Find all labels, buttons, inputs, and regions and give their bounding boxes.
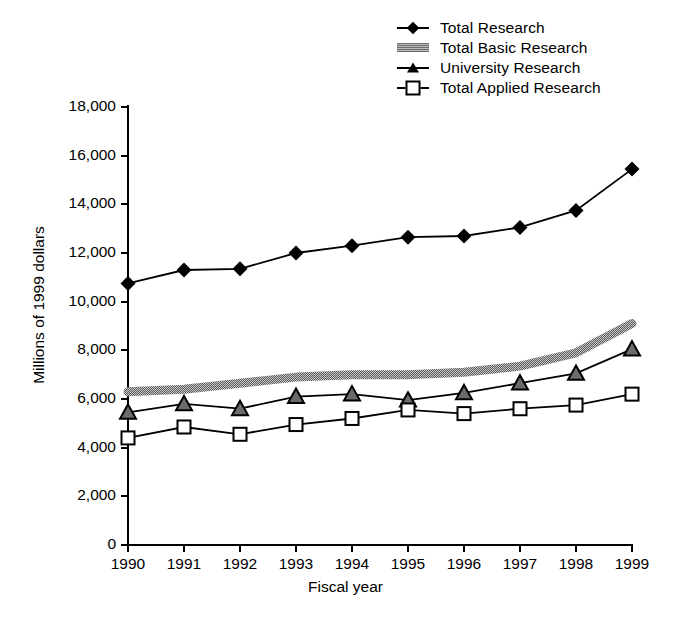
diamond-marker-icon [177, 263, 192, 278]
square-marker-icon [458, 407, 471, 420]
diamond-marker-icon [345, 238, 360, 253]
series-total-basic-research [128, 324, 632, 392]
gray-band-marker-icon [396, 39, 430, 57]
chart-legend: Total Research Total Basic Research Univ… [396, 18, 676, 98]
square-marker-icon [290, 418, 303, 431]
y-tick-label: 10,000 [50, 292, 116, 310]
triangle-marker-icon [344, 386, 360, 400]
x-tick-label: 1990 [98, 555, 158, 573]
square-marker-icon [570, 399, 583, 412]
legend-label: Total Research [440, 19, 545, 37]
legend-label: Total Basic Research [440, 39, 588, 57]
square-marker-icon [626, 388, 639, 401]
series-layer [128, 107, 632, 545]
diamond-marker-icon [121, 276, 136, 291]
y-tick [121, 155, 128, 157]
y-tick-label: 6,000 [50, 389, 116, 407]
diamond-marker-icon [513, 220, 528, 235]
diamond-marker-icon [401, 230, 416, 245]
y-tick-label: 2,000 [50, 486, 116, 504]
x-tick-label: 1992 [210, 555, 270, 573]
y-tick-label: 0 [50, 535, 116, 553]
y-tick [121, 203, 128, 205]
x-tick-label: 1994 [322, 555, 382, 573]
legend-label: Total Applied Research [440, 79, 601, 97]
legend-label: University Research [440, 59, 581, 77]
square-marker-icon [514, 402, 527, 415]
x-tick-label: 1999 [602, 555, 662, 573]
y-tick [121, 106, 128, 108]
open-square-marker-icon [396, 79, 430, 97]
filled-diamond-marker-icon [396, 19, 430, 37]
x-tick-label: 1998 [546, 555, 606, 573]
y-tick-label: 16,000 [50, 146, 116, 164]
y-axis-title: Millions of 1999 dollars [28, 180, 50, 430]
x-tick [127, 545, 129, 552]
triangle-marker-icon [624, 341, 640, 355]
legend-item-total-basic-research: Total Basic Research [396, 38, 676, 58]
series-total-applied-research [122, 388, 639, 445]
y-tick [121, 301, 128, 303]
y-tick [121, 398, 128, 400]
diamond-marker-icon [569, 203, 584, 218]
diamond-marker-icon [233, 261, 248, 276]
legend-item-total-applied-research: Total Applied Research [396, 78, 676, 98]
filled-triangle-marker-icon [396, 59, 430, 77]
x-tick [631, 545, 633, 552]
y-axis-title-text: Millions of 1999 dollars [30, 226, 48, 384]
plot-area: 02,0004,0006,0008,00010,00012,00014,0001… [128, 107, 632, 545]
y-tick-label: 18,000 [50, 97, 116, 115]
x-tick [183, 545, 185, 552]
square-marker-icon [346, 412, 359, 425]
square-marker-icon [402, 403, 415, 416]
x-tick [407, 545, 409, 552]
x-axis-title: Fiscal year [0, 578, 691, 596]
x-tick [463, 545, 465, 552]
x-tick [295, 545, 297, 552]
x-tick [239, 545, 241, 552]
x-tick [575, 545, 577, 552]
x-tick-label: 1991 [154, 555, 214, 573]
square-marker-icon [234, 428, 247, 441]
y-tick-label: 4,000 [50, 438, 116, 456]
line-chart: Total Research Total Basic Research Univ… [0, 0, 691, 622]
x-tick-label: 1995 [378, 555, 438, 573]
square-marker-icon [122, 431, 135, 444]
band-path [128, 324, 632, 392]
triangle-marker-icon [176, 396, 192, 410]
y-tick [121, 252, 128, 254]
series-line [128, 394, 632, 438]
y-tick-label: 12,000 [50, 243, 116, 261]
x-tick-label: 1996 [434, 555, 494, 573]
x-tick [519, 545, 521, 552]
triangle-marker-icon [568, 365, 584, 379]
diamond-marker-icon [457, 228, 472, 243]
y-tick [121, 495, 128, 497]
series-total-research [121, 162, 640, 291]
diamond-marker-icon [625, 162, 640, 177]
legend-item-total-research: Total Research [396, 18, 676, 38]
y-tick [121, 447, 128, 449]
x-tick [351, 545, 353, 552]
y-tick-label: 8,000 [50, 340, 116, 358]
legend-item-university-research: University Research [396, 58, 676, 78]
x-tick-label: 1993 [266, 555, 326, 573]
y-tick-label: 14,000 [50, 194, 116, 212]
y-tick [121, 349, 128, 351]
square-marker-icon [178, 420, 191, 433]
series-line [128, 169, 632, 283]
x-tick-label: 1997 [490, 555, 550, 573]
diamond-marker-icon [289, 246, 304, 261]
